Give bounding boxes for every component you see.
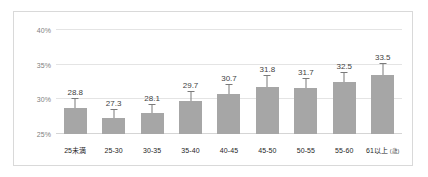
error-bar-cap-top bbox=[264, 75, 271, 76]
bar-slot: 27.3 bbox=[94, 23, 132, 134]
x-tick-label: 40-45 bbox=[220, 147, 238, 154]
plot-area: 25%30%35%40% 28.827.328.129.730.731.831.… bbox=[56, 23, 402, 134]
bar[interactable] bbox=[256, 87, 279, 134]
x-tick-label: 61以上 bbox=[366, 147, 388, 154]
x-tick-label: 35-40 bbox=[181, 147, 199, 154]
bar-value-label: 28.8 bbox=[67, 88, 83, 97]
x-tick-label: 25未満 bbox=[64, 147, 86, 154]
bars-group: 28.827.328.129.730.731.831.732.533.5 bbox=[56, 23, 402, 134]
x-tick-slot: 25未満 bbox=[56, 134, 94, 157]
error-bar-cap-top bbox=[225, 84, 232, 85]
bar-value-label: 29.7 bbox=[183, 81, 199, 90]
error-bar-cap-top bbox=[341, 72, 348, 73]
bar[interactable] bbox=[64, 108, 87, 134]
error-bar-cap-top bbox=[72, 98, 79, 99]
error-bar-cap-top bbox=[149, 104, 156, 105]
bar[interactable] bbox=[294, 88, 317, 134]
bar-slot: 29.7 bbox=[171, 23, 209, 134]
error-bar-cap-top bbox=[302, 78, 309, 79]
bar-value-label: 31.7 bbox=[298, 68, 314, 77]
y-tick-label: 35% bbox=[37, 61, 51, 68]
bar[interactable] bbox=[141, 113, 164, 135]
x-axis-tick-labels: 25未満25-3030-3535-4040-4545-5050-5555-606… bbox=[56, 134, 402, 156]
bar-slot: 28.1 bbox=[133, 23, 171, 134]
y-tick-label: 30% bbox=[37, 96, 51, 103]
error-bar-cap-top bbox=[379, 63, 386, 64]
bar-value-label: 33.5 bbox=[375, 53, 391, 62]
bar-slot: 32.5 bbox=[325, 23, 363, 134]
x-tick-slot: 50-55 bbox=[287, 134, 325, 157]
bar-slot: 31.7 bbox=[287, 23, 325, 134]
chart-figure-frame: 25%30%35%40% 28.827.328.129.730.731.831.… bbox=[13, 11, 413, 166]
x-tick-slot: 40-45 bbox=[210, 134, 248, 157]
bar-slot: 28.8 bbox=[56, 23, 94, 134]
y-tick-label: 25% bbox=[37, 131, 51, 138]
y-tick-label: 40% bbox=[37, 26, 51, 33]
bar-value-label: 28.1 bbox=[144, 94, 160, 103]
error-bar-cap-top bbox=[187, 91, 194, 92]
bar-value-label: 27.3 bbox=[106, 99, 122, 108]
bar-slot: 33.5 bbox=[364, 23, 402, 134]
bar[interactable] bbox=[102, 118, 125, 134]
x-tick-slot: 25-30 bbox=[94, 134, 132, 157]
bar-value-label: 31.8 bbox=[260, 65, 276, 74]
x-tick-label: 55-60 bbox=[335, 147, 353, 154]
bar-value-label: 32.5 bbox=[336, 62, 352, 71]
x-tick-label: 25-30 bbox=[104, 147, 122, 154]
x-tick-slot: 61以上 (歳) bbox=[364, 134, 402, 157]
x-axis-unit-note: (歳) bbox=[388, 148, 399, 154]
bar-slot: 30.7 bbox=[210, 23, 248, 134]
x-tick-slot: 35-40 bbox=[171, 134, 209, 157]
x-tick-slot: 55-60 bbox=[325, 134, 363, 157]
x-tick-label: 50-55 bbox=[297, 147, 315, 154]
x-tick-label: 30-35 bbox=[143, 147, 161, 154]
bar-value-label: 30.7 bbox=[221, 74, 237, 83]
x-tick-slot: 45-50 bbox=[248, 134, 286, 157]
bar[interactable] bbox=[179, 101, 202, 134]
error-bar-cap-top bbox=[110, 109, 117, 110]
bar[interactable] bbox=[371, 75, 394, 134]
x-tick-label: 45-50 bbox=[258, 147, 276, 154]
bar[interactable] bbox=[333, 82, 356, 134]
bar[interactable] bbox=[217, 94, 240, 134]
x-tick-slot: 30-35 bbox=[133, 134, 171, 157]
bar-slot: 31.8 bbox=[248, 23, 286, 134]
